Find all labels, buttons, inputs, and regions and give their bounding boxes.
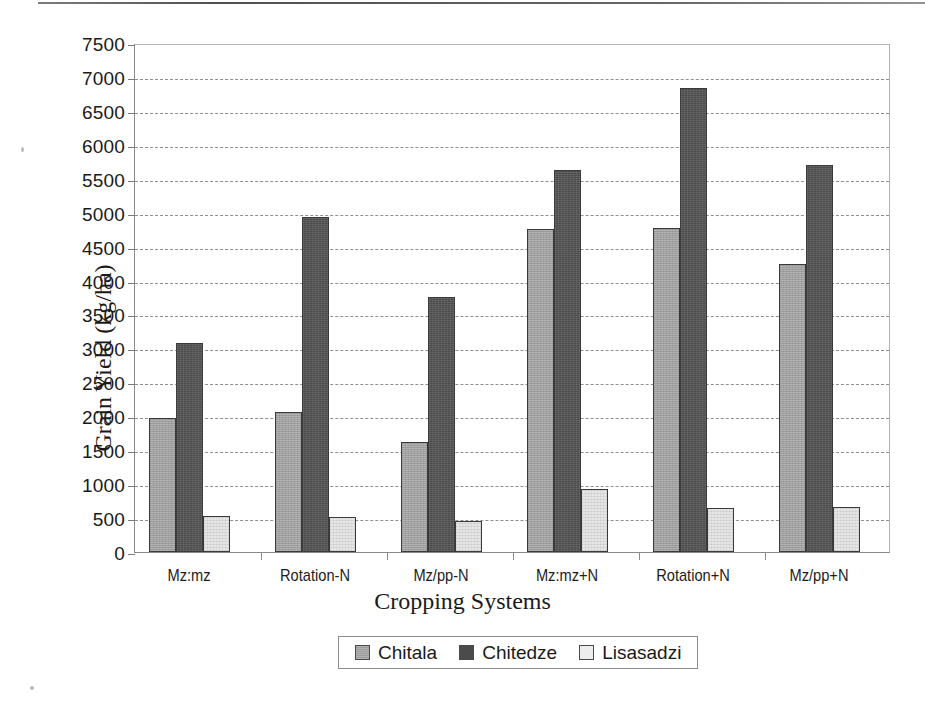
legend-swatch [579, 645, 594, 660]
y-axis-tick-label: 2000 [82, 407, 125, 429]
bar-group [275, 45, 356, 552]
y-axis-tick-label: 0 [114, 543, 125, 565]
scan-speck [30, 686, 34, 690]
bar [707, 508, 734, 552]
page-top-rule [38, 2, 925, 4]
chart-page: Grain Yield (kg/ha) 05001000150020002500… [0, 0, 925, 716]
y-axis-tick-mark [128, 452, 135, 453]
bar [833, 507, 860, 552]
y-axis-tick-mark [128, 147, 135, 148]
gridline [135, 215, 889, 216]
y-axis-tick-label: 2500 [82, 373, 125, 395]
bar [527, 229, 554, 552]
bar-group [653, 45, 734, 552]
bar-group [527, 45, 608, 552]
y-axis-tick-mark [128, 384, 135, 385]
legend-label: Lisasadzi [602, 642, 681, 664]
gridline [135, 113, 889, 114]
gridline [135, 249, 889, 250]
gridline [135, 181, 889, 182]
y-axis-tick-label: 5500 [82, 170, 125, 192]
bar [176, 343, 203, 552]
y-axis-tick-label: 4000 [82, 272, 125, 294]
bar-group [149, 45, 230, 552]
legend-item[interactable]: Chitedze [459, 642, 557, 664]
x-axis-tick-mark [765, 552, 766, 560]
y-axis-tick-mark [128, 113, 135, 114]
legend-item[interactable]: Chitala [355, 642, 437, 664]
y-axis-tick-label: 6000 [82, 136, 125, 158]
x-axis-tick-mark [387, 552, 388, 560]
y-axis-tick-label: 1500 [82, 441, 125, 463]
x-axis-tick-mark [261, 552, 262, 560]
legend-label: Chitala [378, 642, 437, 664]
bar [149, 418, 176, 552]
x-axis-category-label: Mz:mz [163, 566, 213, 586]
y-axis-tick-label: 3500 [82, 305, 125, 327]
bar [806, 165, 833, 552]
bar [581, 489, 608, 552]
y-axis-tick-label: 7000 [82, 68, 125, 90]
x-axis-category-label: Mz:mz+N [530, 566, 602, 586]
y-axis-tick-label: 500 [93, 509, 125, 531]
gridline [135, 316, 889, 317]
y-axis-tick-mark [128, 316, 135, 317]
y-axis-tick-mark [128, 418, 135, 419]
bar [779, 264, 806, 552]
y-axis-tick-mark [128, 520, 135, 521]
y-axis-tick-label: 3000 [82, 339, 125, 361]
gridline [135, 418, 889, 419]
y-axis-tick-mark [128, 181, 135, 182]
y-axis-tick-mark [128, 350, 135, 351]
bar [428, 297, 455, 552]
legend-item[interactable]: Lisasadzi [579, 642, 681, 664]
gridline [135, 350, 889, 351]
x-axis-category-label: Rotation+N [650, 566, 736, 586]
bar [302, 217, 329, 552]
legend-label: Chitedze [482, 642, 557, 664]
gridline [135, 283, 889, 284]
x-axis-category-label: Mz/pp-N [408, 566, 472, 586]
gridline [135, 452, 889, 453]
legend-swatch [459, 645, 474, 660]
bar [554, 170, 581, 552]
gridline [135, 79, 889, 80]
y-axis-tick-mark [128, 249, 135, 250]
x-axis-tick-mark [639, 552, 640, 560]
x-axis-title: Cropping Systems [0, 588, 925, 615]
chart-legend: ChitalaChitedzeLisasadzi [338, 636, 698, 669]
bar [401, 442, 428, 552]
scan-speck [21, 147, 24, 152]
y-axis-tick-mark [128, 45, 135, 46]
bar [653, 228, 680, 552]
bar [329, 517, 356, 552]
y-axis-tick-mark [128, 554, 135, 555]
gridline [135, 486, 889, 487]
y-axis-tick-label: 5000 [82, 204, 125, 226]
y-axis-tick-mark [128, 486, 135, 487]
gridline [135, 384, 889, 385]
x-axis-tick-mark [513, 552, 514, 560]
bar [455, 521, 482, 552]
y-axis-tick-mark [128, 215, 135, 216]
x-axis-category-label: Rotation-N [274, 566, 355, 586]
bar [275, 412, 302, 552]
bar-group [401, 45, 482, 552]
y-axis-tick-label: 1000 [82, 475, 125, 497]
bar [203, 516, 230, 552]
y-axis-tick-label: 7500 [82, 34, 125, 56]
bar-group [779, 45, 860, 552]
legend-swatch [355, 645, 370, 660]
y-axis-tick-mark [128, 283, 135, 284]
plot-area: 0500100015002000250030003500400045005000… [134, 44, 890, 553]
x-axis-category-label: Mz/pp+N [784, 566, 853, 586]
gridline [135, 147, 889, 148]
y-axis-tick-label: 6500 [82, 102, 125, 124]
y-axis-tick-mark [128, 79, 135, 80]
y-axis-tick-label: 4500 [82, 238, 125, 260]
bar [680, 88, 707, 552]
gridline [135, 520, 889, 521]
